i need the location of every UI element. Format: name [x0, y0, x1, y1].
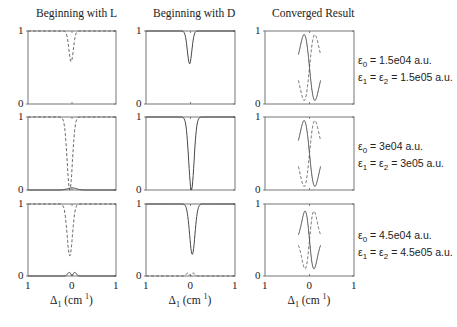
- y-tick-label: 1: [18, 197, 24, 209]
- y-tick-label: 1: [255, 110, 261, 122]
- x-tick-label: 1: [25, 279, 31, 291]
- dashed-curve: [28, 204, 116, 256]
- annotation-row-3: ε0 = 4.5e04 a.u. ε1 = ε2 = 4.5e05 a.u.: [358, 229, 453, 263]
- panel-r1-c1: [26, 31, 116, 104]
- x-tick-label: 0: [69, 279, 75, 291]
- x-tick-label: 1: [262, 279, 268, 291]
- x-tick-label: 1: [143, 279, 149, 291]
- solid-curve: [146, 204, 235, 254]
- panel-r3-c2: [144, 204, 235, 276]
- y-tick-label: 0: [136, 183, 142, 195]
- panel-r2-c1: [26, 117, 116, 190]
- x-tick-label: 0: [307, 279, 313, 291]
- x-tick-label: 1: [113, 279, 119, 291]
- y-tick-label: 0: [255, 269, 261, 281]
- panel-r3-c1: [26, 204, 116, 276]
- y-tick-label: 1: [18, 110, 24, 122]
- x-axis-label: Δ1 (cm 1): [288, 292, 331, 309]
- y-tick-label: 0: [255, 97, 261, 109]
- x-tick-label: 0: [188, 279, 194, 291]
- y-tick-label: 0: [255, 183, 261, 195]
- y-tick-label: 1: [255, 24, 261, 36]
- y-tick-label: 1: [18, 24, 24, 36]
- y-tick-label: 0: [18, 269, 24, 281]
- annotation-row-2: ε0 = 3e04 a.u. ε1 = ε2 = 3e05 a.u.: [358, 140, 444, 174]
- y-tick-label: 1: [136, 197, 142, 209]
- dashed-curve: [28, 31, 116, 62]
- column-title-converged: Converged Result: [272, 7, 355, 19]
- y-tick-label: 1: [136, 110, 142, 122]
- panel-r1-c3: [263, 31, 354, 104]
- y-tick-label: 0: [136, 97, 142, 109]
- y-tick-label: 1: [136, 24, 142, 36]
- column-title-l: Beginning with L: [36, 7, 117, 19]
- solid-curve: [298, 121, 320, 187]
- column-title-d: Beginning with D: [153, 7, 235, 19]
- y-tick-label: 0: [18, 183, 24, 195]
- dashed-curve: [28, 117, 116, 190]
- annotation-row-1: ε0 = 1.5e04 a.u. ε1 = ε2 = 1.5e05 a.u.: [358, 54, 453, 88]
- solid-curve: [298, 211, 320, 269]
- solid-curve: [146, 31, 235, 64]
- panel-r2-c2: [144, 117, 235, 190]
- panel-r3-c3: [263, 204, 354, 276]
- x-axis-label: Δ1 (cm 1): [169, 292, 212, 309]
- x-tick-label: 1: [232, 279, 238, 291]
- panel-r2-c3: [263, 117, 354, 190]
- solid-curve: [298, 35, 320, 101]
- panel-r1-c2: [144, 31, 235, 104]
- y-tick-label: 0: [18, 97, 24, 109]
- y-tick-label: 0: [136, 269, 142, 281]
- x-axis-label: Δ1 (cm 1): [50, 292, 93, 309]
- solid-curve: [146, 117, 235, 190]
- y-tick-label: 1: [255, 197, 261, 209]
- x-tick-label: 1: [351, 279, 357, 291]
